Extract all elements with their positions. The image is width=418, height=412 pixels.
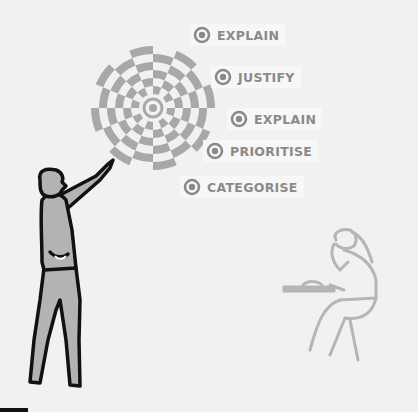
skill-label: EXPLAIN bbox=[227, 108, 322, 130]
target-bullet-icon bbox=[214, 68, 232, 86]
seated-person-illustration bbox=[0, 0, 418, 412]
skill-label: JUSTIFY bbox=[211, 66, 301, 88]
skill-label-text: EXPLAIN bbox=[254, 112, 316, 127]
target-bullet-icon bbox=[230, 110, 248, 128]
corner-mark bbox=[0, 408, 28, 412]
skill-label: EXPLAIN bbox=[190, 24, 285, 46]
target-bullet-icon bbox=[193, 26, 211, 44]
skill-label: CATEGORISE bbox=[180, 176, 304, 198]
skill-label-text: JUSTIFY bbox=[238, 70, 295, 85]
skill-label: PRIORITISE bbox=[203, 140, 318, 162]
skill-label-text: CATEGORISE bbox=[207, 180, 298, 195]
target-bullet-icon bbox=[206, 142, 224, 160]
skill-label-text: PRIORITISE bbox=[230, 144, 312, 159]
target-bullet-icon bbox=[183, 178, 201, 196]
skill-label-text: EXPLAIN bbox=[217, 28, 279, 43]
